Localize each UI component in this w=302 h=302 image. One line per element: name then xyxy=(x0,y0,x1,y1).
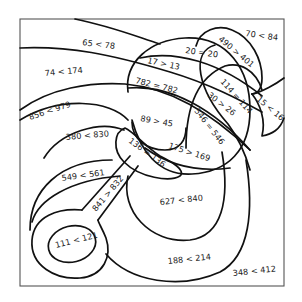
region-label[interactable]: 15 < 16 xyxy=(255,94,287,123)
region-label[interactable]: 136 = 136 xyxy=(127,136,168,170)
region-label[interactable]: 782 = 782 xyxy=(135,75,179,95)
region-label[interactable]: 627 < 840 xyxy=(159,193,203,207)
region-label[interactable]: 175 > 169 xyxy=(167,140,211,163)
region-label[interactable]: 856 < 979 xyxy=(28,99,72,122)
region-label[interactable]: 65 < 78 xyxy=(82,37,116,51)
region-label[interactable]: 89 > 45 xyxy=(140,113,174,129)
region-label[interactable]: 348 < 412 xyxy=(232,264,276,278)
region-label[interactable]: 841 > 832 xyxy=(90,174,126,214)
region-label[interactable]: 490 > 401 xyxy=(217,34,257,70)
region-label[interactable]: 74 < 174 xyxy=(44,65,83,78)
coloring-worksheet: 65 < 78 74 < 174 856 < 979 380 < 830 549… xyxy=(0,0,302,302)
region-label[interactable]: 111 < 121 xyxy=(54,230,98,250)
region-label[interactable]: 17 > 13 xyxy=(147,55,181,72)
region-label[interactable]: 188 < 214 xyxy=(167,252,211,266)
region-label[interactable]: 70 < 84 xyxy=(245,28,279,42)
region-label[interactable]: 380 < 830 xyxy=(65,128,109,142)
region-label[interactable]: 20 = 20 xyxy=(185,45,219,59)
region-label[interactable]: 546 = 546 xyxy=(192,106,227,146)
region-label[interactable]: 549 < 561 xyxy=(61,167,105,183)
region-labels: 65 < 78 74 < 174 856 < 979 380 < 830 549… xyxy=(0,0,302,302)
